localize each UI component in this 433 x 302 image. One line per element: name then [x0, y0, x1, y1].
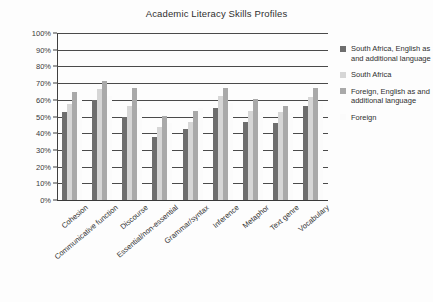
bar-group [92, 33, 112, 200]
x-axis-label: Vocabulary [297, 203, 331, 234]
legend-swatch-icon [340, 72, 346, 78]
gridline [57, 200, 328, 201]
legend-swatch-icon [340, 114, 346, 120]
y-axis-label: 60% [36, 95, 57, 104]
y-axis-label: 70% [36, 79, 57, 88]
chart-container: Academic Literacy Skills Profiles 100%90… [0, 0, 433, 302]
chart-title: Academic Literacy Skills Profiles [0, 8, 433, 19]
bar-group [213, 33, 233, 200]
bar-group [152, 33, 172, 200]
y-axis-label: 80% [36, 62, 57, 71]
legend-item: Foreign, English as and additional langu… [340, 87, 432, 106]
y-axis-label: 20% [36, 162, 57, 171]
bar [77, 100, 82, 200]
x-axis-label: Text genre [268, 203, 301, 232]
legend-label: Foreign [351, 113, 376, 123]
bar [228, 103, 233, 200]
bar [198, 108, 203, 200]
legend-swatch-icon [340, 88, 346, 94]
bars-layer [57, 33, 328, 200]
y-axis-label: 50% [36, 112, 57, 121]
bar-group [273, 33, 293, 200]
bar-group [303, 33, 323, 200]
y-axis-label: 40% [36, 129, 57, 138]
bar-group [122, 33, 142, 200]
legend-item: Foreign [340, 113, 432, 123]
legend-label: South Africa, English as and additional … [351, 44, 432, 63]
legend-item: South Africa [340, 70, 432, 80]
plot-area: 100%90%80%70%60%50%40%30%20%10%0% [57, 33, 328, 200]
y-axis-label: 90% [36, 45, 57, 54]
bar [107, 96, 112, 200]
legend-label: South Africa [351, 70, 391, 80]
bar-group [62, 33, 82, 200]
bar [258, 112, 263, 201]
bar-group [243, 33, 263, 200]
bar [288, 113, 293, 200]
y-axis-label: 10% [36, 179, 57, 188]
bar [137, 108, 142, 200]
x-axis-labels: CohesionCommunicative functionDiscourseE… [57, 203, 328, 295]
legend-swatch-icon [340, 46, 346, 52]
x-axis-label: Metaphor [240, 203, 270, 230]
y-axis-label: 0% [40, 196, 57, 205]
bar [167, 123, 172, 200]
y-axis-label: 100% [32, 29, 57, 38]
bar-group [183, 33, 203, 200]
x-axis-label: Inference [211, 203, 241, 230]
chart-legend: South Africa, English as and additional … [340, 44, 432, 129]
y-axis-label: 30% [36, 145, 57, 154]
bar [318, 103, 323, 200]
legend-item: South Africa, English as and additional … [340, 44, 432, 63]
legend-label: Foreign, English as and additional langu… [351, 87, 432, 106]
